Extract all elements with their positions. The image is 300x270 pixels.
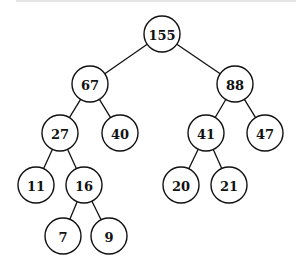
node-label: 41 (197, 127, 215, 142)
tree-edge-155-88 (177, 44, 220, 74)
tree-edge-27-16 (68, 149, 77, 168)
tree-edge-27-11 (44, 149, 53, 168)
node-label: 20 (172, 179, 190, 194)
tree-node-16: 16 (66, 167, 102, 203)
node-label: 155 (148, 28, 175, 43)
node-label: 11 (27, 179, 45, 194)
tree-node-9: 9 (91, 218, 127, 254)
tree-node-40: 40 (102, 115, 138, 151)
tree-edge-16-7 (70, 202, 77, 220)
node-label: 9 (104, 230, 113, 245)
tree-edge-155-67 (105, 44, 147, 73)
node-label: 16 (75, 179, 93, 194)
node-label: 27 (51, 127, 69, 142)
node-label: 7 (58, 230, 67, 245)
node-label: 47 (256, 127, 274, 142)
tree-node-7: 7 (45, 218, 81, 254)
tree-node-47: 47 (247, 115, 283, 151)
tree-edge-41-21 (213, 149, 221, 168)
tree-node-155: 155 (144, 16, 180, 52)
tree-node-20: 20 (163, 167, 199, 203)
tree-edge-67-27 (69, 99, 80, 117)
tree-edge-41-20 (189, 149, 198, 169)
tree-edge-88-47 (244, 99, 255, 117)
node-label: 21 (220, 179, 238, 194)
node-label: 40 (111, 127, 129, 142)
tree-edge-16-9 (92, 201, 101, 220)
tree-node-88: 88 (217, 66, 253, 102)
tree-node-67: 67 (72, 66, 108, 102)
tree-edge-67-40 (99, 99, 110, 117)
node-label: 88 (226, 78, 244, 93)
node-label: 67 (81, 78, 99, 93)
tree-nodes: 1556788274041471116202179 (18, 16, 283, 254)
binary-tree-diagram: 1556788274041471116202179 (0, 0, 300, 270)
tree-node-11: 11 (18, 167, 54, 203)
tree-edge-88-41 (215, 99, 226, 117)
tree-node-41: 41 (188, 115, 224, 151)
tree-node-21: 21 (211, 167, 247, 203)
tree-node-27: 27 (42, 115, 78, 151)
